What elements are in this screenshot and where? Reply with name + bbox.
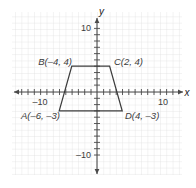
- coordinate-plane-figure: B(–4, 4) C(2, 4) A(–6, –3) D(4, –3) –10 …: [0, 0, 196, 188]
- y-axis-tick-label-neg10: –10: [76, 150, 91, 160]
- x-axis-label: x: [184, 87, 191, 98]
- vertex-label-D: D(4, –3): [125, 110, 159, 121]
- vertex-label-C: C(2, 4): [114, 56, 143, 67]
- y-axis-label: y: [98, 6, 105, 17]
- vertex-label-B: B(–4, 4): [38, 56, 72, 67]
- y-axis-tick-label-10: 10: [81, 23, 91, 33]
- x-axis-tick-label-neg10: –10: [32, 97, 47, 107]
- vertex-label-A: A(–6, –3): [20, 110, 60, 121]
- coordinate-plane-svg: B(–4, 4) C(2, 4) A(–6, –3) D(4, –3) –10 …: [0, 0, 196, 188]
- x-axis-tick-label-10: 10: [158, 97, 168, 107]
